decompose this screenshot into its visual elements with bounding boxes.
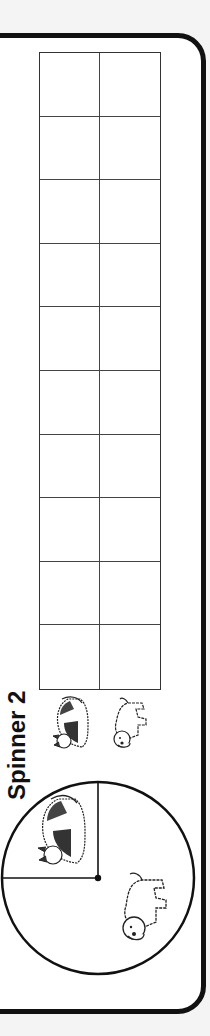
tally-cell[interactable] <box>40 180 100 244</box>
tally-cell[interactable] <box>40 625 100 689</box>
tally-cell[interactable] <box>100 244 160 308</box>
tally-cell[interactable] <box>100 117 160 181</box>
tally-cell[interactable] <box>40 53 100 117</box>
spinner-center-pin <box>95 875 101 881</box>
tally-cell[interactable] <box>40 117 100 181</box>
tally-cell[interactable] <box>40 435 100 499</box>
tally-cell[interactable] <box>40 307 100 371</box>
tally-cell[interactable] <box>100 625 160 689</box>
tally-cell[interactable] <box>100 53 160 117</box>
cat-column-header <box>40 693 98 755</box>
tally-cell[interactable] <box>40 244 100 308</box>
spinner[interactable] <box>0 770 210 985</box>
tally-cell[interactable] <box>40 498 100 562</box>
cat-icon <box>40 693 98 755</box>
tally-cell[interactable] <box>40 562 100 626</box>
dog-column-header <box>100 693 158 755</box>
tally-cell[interactable] <box>40 371 100 435</box>
tally-cell[interactable] <box>100 180 160 244</box>
tally-cell[interactable] <box>100 307 160 371</box>
tally-cell[interactable] <box>100 371 160 435</box>
tally-cell[interactable] <box>100 435 160 499</box>
tally-table <box>39 52 161 690</box>
tally-cell[interactable] <box>100 562 160 626</box>
dog-icon <box>100 693 158 755</box>
tally-cell[interactable] <box>100 498 160 562</box>
